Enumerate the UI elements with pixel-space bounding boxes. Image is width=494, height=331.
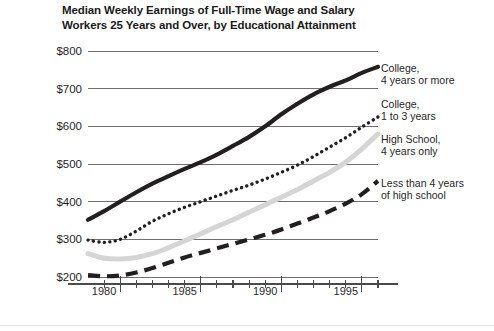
y-tick-label-300: $300: [30, 234, 82, 245]
x-tick-label-1980: 1980: [92, 285, 116, 297]
y-tick-label-800: $800: [30, 46, 82, 57]
chart-title-line-2: Workers 25 Years and Over, by Educationa…: [62, 18, 462, 33]
series-label-college-4-years-or-more: College, 4 years or more: [381, 63, 455, 87]
y-tick-label-500: $500: [30, 159, 82, 170]
y-axis-labels: $800 $700 $600 $500 $400 $300 $200: [28, 51, 82, 277]
series-label-line-2: 4 years or more: [381, 75, 455, 87]
bottom-rule: [0, 325, 494, 326]
series-label-college-1-to-3-years: College, 1 to 3 years: [381, 99, 436, 123]
series-label-line-2: of high school: [381, 190, 464, 202]
x-tick-label-1985: 1985: [172, 285, 196, 297]
chart-plot-svg: [88, 51, 378, 277]
chart-figure: Median Weekly Earnings of Full-Time Wage…: [0, 0, 494, 331]
series-paths: [88, 67, 378, 276]
x-tick-label-1995: 1995: [334, 285, 358, 297]
series-end-labels: College, 4 years or more College, 1 to 3…: [381, 51, 493, 281]
series-line-college-1-to-3-years: [88, 117, 378, 242]
chart-title: Median Weekly Earnings of Full-Time Wage…: [62, 3, 462, 32]
y-tick-label-600: $600: [30, 121, 82, 132]
y-tick-label-400: $400: [30, 197, 82, 208]
series-label-high-school-4-years-only: High School, 4 years only: [381, 134, 441, 158]
y-tick-label-700: $700: [30, 84, 82, 95]
series-label-line-2: 4 years only: [381, 146, 441, 158]
series-label-line-2: 1 to 3 years: [381, 111, 436, 123]
plot-area: [88, 51, 378, 277]
x-axis-tick-labels: 1980 1985 1990 1995: [88, 285, 378, 301]
x-tick-label-1990: 1990: [253, 285, 277, 297]
series-label-less-than-4-years-of-high-school: Less than 4 years of high school: [381, 178, 464, 202]
chart-title-line-1: Median Weekly Earnings of Full-Time Wage…: [62, 3, 462, 18]
